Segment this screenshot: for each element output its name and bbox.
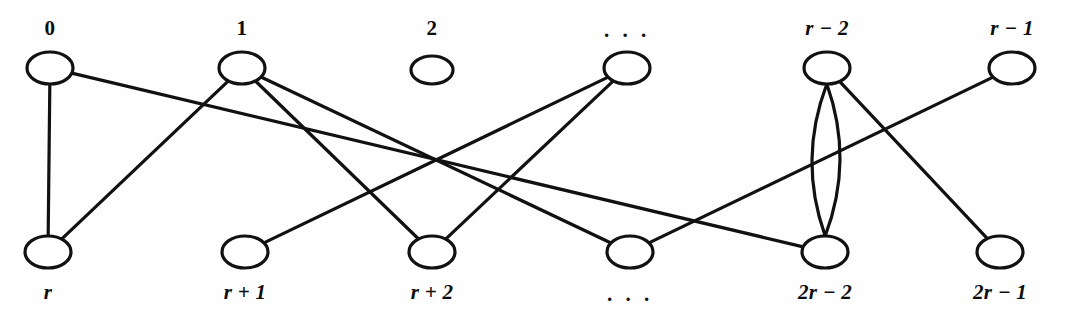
graph-edge-vdots-u2-6 bbox=[446, 81, 614, 239]
graph-edge-vr2-u2r1-9 bbox=[840, 81, 988, 238]
ellipsis-label-vdots: . . . bbox=[604, 18, 650, 43]
node-label-v1: 1 bbox=[237, 16, 248, 41]
graph-node-vr1[interactable] bbox=[989, 52, 1035, 84]
node-label-u2r1: 2r − 1 bbox=[973, 280, 1027, 305]
graph-node-u2r2[interactable] bbox=[802, 236, 848, 268]
edge-layer bbox=[48, 73, 993, 247]
graph-node-v2[interactable] bbox=[411, 56, 453, 84]
graph-node-udots[interactable] bbox=[607, 236, 653, 268]
node-label-u2: r + 2 bbox=[411, 280, 454, 305]
graph-edge-v1-u2-3 bbox=[255, 81, 418, 239]
node-label-vr2: r − 2 bbox=[805, 16, 848, 41]
graph-node-vdots[interactable] bbox=[604, 52, 650, 84]
node-label-v0: 0 bbox=[45, 16, 56, 41]
node-label-u2r2: 2r − 2 bbox=[798, 280, 852, 305]
graph-edge-vr2-u2r2-8 bbox=[825, 84, 840, 236]
ellipsis-label-udots: . . . bbox=[607, 282, 653, 307]
graph-node-v0[interactable] bbox=[27, 52, 73, 84]
graph-figure: 012. . .r − 2r − 1rr + 1r + 2. . .2r − 2… bbox=[0, 0, 1075, 316]
graph-node-u2r1[interactable] bbox=[977, 236, 1023, 268]
graph-node-vr2[interactable] bbox=[804, 52, 850, 84]
graph-node-u2[interactable] bbox=[409, 236, 455, 268]
node-label-v2: 2 bbox=[427, 16, 438, 41]
graph-canvas bbox=[0, 0, 1075, 316]
graph-edge-v0-u0-0 bbox=[48, 84, 50, 236]
graph-node-u0[interactable] bbox=[25, 236, 71, 268]
graph-edge-v1-u0-2 bbox=[62, 81, 229, 239]
graph-node-u1[interactable] bbox=[222, 236, 268, 268]
graph-node-v1[interactable] bbox=[219, 52, 265, 84]
node-label-u1: r + 1 bbox=[224, 280, 267, 305]
node-label-u0: r bbox=[44, 280, 52, 305]
node-label-vr1: r − 1 bbox=[990, 16, 1033, 41]
